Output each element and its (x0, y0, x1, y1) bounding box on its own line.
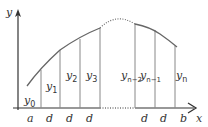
tick-label-d2: d (66, 112, 73, 125)
curve-right-solid (135, 24, 177, 47)
label-y1: y1 (45, 80, 57, 95)
curve-dotted-gap (100, 19, 135, 28)
x-axis-label: x (196, 112, 203, 125)
tick-label-a: a (27, 112, 34, 125)
label-y0: y0 (23, 94, 35, 109)
tick-label-b: b (180, 112, 187, 125)
tick-label-d1: d (46, 112, 53, 125)
tick-label-d4: d (141, 112, 148, 125)
x-tick-labels: a d d d d d b (27, 112, 187, 125)
label-yn: yn (175, 69, 187, 84)
label-y2: y2 (65, 69, 77, 84)
label-y3: y3 (85, 69, 97, 84)
tick-label-d5: d (160, 112, 167, 125)
partition-diagram: y x y0 y1 y2 (0, 0, 208, 127)
y-axis-label: y (5, 6, 13, 19)
ordinate-lines (41, 24, 175, 108)
label-yn-1: yn−1 (139, 69, 161, 84)
label-yn-2: yn−2 (120, 69, 142, 84)
y-axis: y (5, 6, 21, 110)
diagram-canvas: y x y0 y1 y2 (0, 0, 208, 127)
ordinate-labels: y0 y1 y2 y3 yn−2 yn−1 yn (23, 69, 187, 109)
tick-label-d3: d (86, 112, 93, 125)
